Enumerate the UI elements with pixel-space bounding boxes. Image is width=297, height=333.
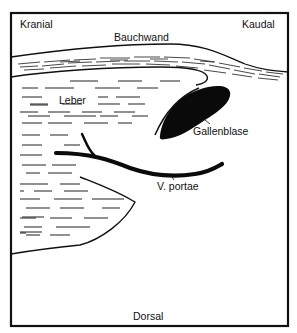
v-portae-main [56,153,222,176]
label-leber: Leber [59,95,86,106]
leber-lower-boundary [11,177,135,254]
bauchwand-muscle-texture [18,57,283,80]
label-bauchwand: Bauchwand [114,32,169,43]
label-dorsal: Dorsal [133,311,163,322]
diagram-frame [11,13,288,326]
v-portae-branch [82,134,95,156]
leber-upper-boundary [11,67,207,85]
anatomical-diagram [0,0,297,333]
label-gallenblase: Gallenblase [193,126,248,137]
label-kranial: Kranial [20,19,53,30]
label-v-portae: V. portae [157,181,199,192]
label-kaudal: Kaudal [242,19,275,30]
